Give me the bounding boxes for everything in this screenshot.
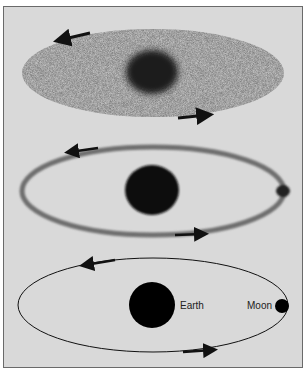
arrow-left-icon xyxy=(85,260,115,265)
panel-1-cloud xyxy=(22,29,284,118)
diagram-canvas: Earth Moon xyxy=(0,0,306,375)
moon-circle xyxy=(275,299,289,313)
earth-circle xyxy=(129,282,175,328)
central-mass xyxy=(125,165,179,215)
panel-3-orbit: Earth Moon xyxy=(18,258,289,352)
panel-2-ring xyxy=(22,147,290,235)
arrow-right-icon xyxy=(175,234,203,235)
small-body xyxy=(276,185,290,197)
moon-label: Moon xyxy=(247,300,272,311)
earth-label: Earth xyxy=(180,300,204,311)
central-mass xyxy=(126,50,178,94)
